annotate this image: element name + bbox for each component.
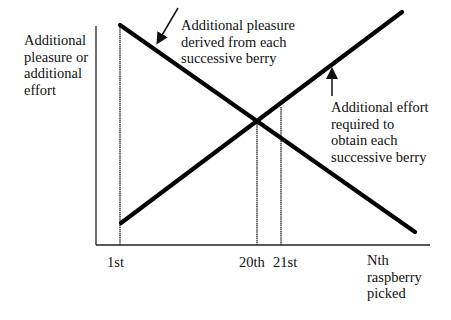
y-axis-label-line: pleasure or xyxy=(24,49,88,66)
benefit-label-line: derived from each xyxy=(181,34,295,51)
x-axis-label-line: raspberry xyxy=(367,269,422,286)
y-axis-label-line: Additional xyxy=(24,32,88,49)
y-axis-label-line: additional xyxy=(24,65,88,82)
x-tick-1st: 1st xyxy=(107,254,124,271)
x-axis-label-line: picked xyxy=(367,285,422,302)
x-axis-label-line: Nth xyxy=(367,252,422,269)
y-axis-label: Additional pleasure or additional effort xyxy=(24,32,88,98)
benefit-label-line: successive berry xyxy=(181,50,295,67)
cost-label-line: required to xyxy=(331,116,429,133)
cost-label-line: obtain each xyxy=(331,132,429,149)
x-tick-20th: 20th xyxy=(239,254,265,271)
benefit-label-line: Additional pleasure xyxy=(181,17,295,34)
x-axis-label: Nth raspberry picked xyxy=(367,252,422,302)
cost-label-line: Additional effort xyxy=(331,99,429,116)
x-tick-21st: 21st xyxy=(273,254,297,271)
y-axis-label-line: effort xyxy=(24,82,88,99)
marginal-benefit-label: Additional pleasure derived from each su… xyxy=(181,17,295,67)
cost-label-line: successive berry xyxy=(331,149,429,166)
benefit-annotation-arrow xyxy=(158,8,178,42)
marginal-cost-label: Additional effort required to obtain eac… xyxy=(331,99,429,165)
